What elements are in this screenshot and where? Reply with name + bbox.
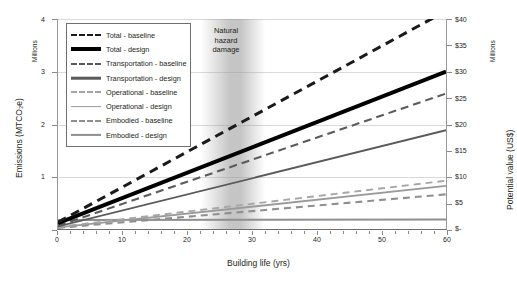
x-tickmark: [161, 231, 162, 234]
legend-item-operational-baseline[interactable]: Operational - baseline: [71, 85, 185, 99]
x-tickmark: [83, 231, 84, 234]
x-tickmark: [434, 231, 435, 234]
x-tickmark: [356, 231, 357, 234]
legend-swatch-transportation-design: [71, 73, 101, 83]
legend-item-operational-design[interactable]: Operational - design: [71, 99, 185, 113]
natural-hazard-annotation: Natural hazard damage: [196, 26, 256, 55]
legend-swatch-embodied-design: [71, 130, 101, 140]
x-tickmark: [408, 231, 409, 234]
y-tick-right-15: $15: [455, 147, 481, 154]
legend-swatch-operational-design: [71, 102, 101, 112]
y-axis-left-units: Millions: [31, 40, 38, 62]
x-tickmark: [57, 231, 58, 235]
y-tick-right-0: $-: [455, 225, 481, 232]
legend-label-transportation-design: Transportation - design: [106, 74, 181, 83]
chart-legend: Total - baseline Total - design Transpor…: [66, 23, 191, 147]
chart-figure: Emissions (MTCO₂e) Millions Potential va…: [0, 0, 517, 282]
x-tickmark: [304, 231, 305, 234]
x-tick-30: 30: [240, 236, 264, 243]
x-tick-0: 0: [45, 236, 69, 243]
legend-label-total-design: Total - design: [106, 45, 149, 54]
x-tickmark: [70, 231, 71, 234]
x-tickmark: [291, 231, 292, 234]
x-tickmark: [278, 231, 279, 234]
y-tick-left-4: 4: [30, 16, 45, 23]
x-tick-50: 50: [370, 236, 394, 243]
x-tickmark: [200, 231, 201, 234]
y-axis-right-title: Potential value (US$): [505, 130, 515, 210]
y-tick-right-30: $30: [455, 68, 481, 75]
x-tickmark: [239, 231, 240, 234]
y-axis-left-title: Emissions (MTCO₂e): [14, 98, 24, 178]
y-axis-right-units: Millions: [489, 40, 496, 62]
legend-item-total-baseline[interactable]: Total - baseline: [71, 28, 185, 42]
legend-item-total-design[interactable]: Total - design: [71, 42, 185, 56]
x-tickmark: [109, 231, 110, 234]
legend-label-embodied-baseline: Embodied - baseline: [106, 116, 173, 125]
x-tickmark: [421, 231, 422, 234]
legend-swatch-total-baseline: [71, 30, 101, 40]
x-tickmark: [382, 231, 383, 235]
legend-swatch-total-design: [71, 44, 101, 54]
x-tick-60: 60: [435, 236, 459, 243]
x-tick-10: 10: [110, 236, 134, 243]
x-tickmark: [395, 231, 396, 234]
legend-label-operational-baseline: Operational - baseline: [106, 88, 177, 97]
legend-item-embodied-design[interactable]: Embodied - design: [71, 128, 185, 142]
x-tickmark: [122, 231, 123, 235]
legend-label-embodied-design: Embodied - design: [106, 131, 167, 140]
x-tickmark: [317, 231, 318, 235]
y-tick-right-25: $25: [455, 95, 481, 102]
y-tick-left-3: 3: [30, 68, 45, 75]
x-tickmark: [148, 231, 149, 234]
legend-item-embodied-baseline[interactable]: Embodied - baseline: [71, 114, 185, 128]
x-tickmark: [330, 231, 331, 234]
legend-label-total-baseline: Total - baseline: [106, 31, 155, 40]
y-tick-right-40: $40: [455, 16, 481, 23]
legend-swatch-embodied-baseline: [71, 116, 101, 126]
x-tickmark: [174, 231, 175, 234]
x-tick-20: 20: [175, 236, 199, 243]
legend-swatch-transportation-baseline: [71, 59, 101, 69]
legend-label-transportation-baseline: Transportation - baseline: [106, 59, 186, 68]
y-tick-right-5: $5: [455, 199, 481, 206]
legend-swatch-operational-baseline: [71, 87, 101, 97]
x-tick-40: 40: [305, 236, 329, 243]
x-tickmark: [252, 231, 253, 235]
y-tick-right-35: $35: [455, 42, 481, 49]
x-tickmark: [265, 231, 266, 234]
x-tickmark: [343, 231, 344, 234]
x-tickmark: [226, 231, 227, 234]
x-tickmark: [135, 231, 136, 234]
x-axis-title: Building life (yrs): [0, 258, 517, 268]
x-tickmark: [369, 231, 370, 234]
x-tickmark: [187, 231, 188, 235]
legend-label-operational-design: Operational - design: [106, 102, 172, 111]
y-tick-left-1: 1: [30, 173, 45, 180]
y-tick-left-2: 2: [30, 121, 45, 128]
legend-item-transportation-baseline[interactable]: Transportation - baseline: [71, 57, 185, 71]
legend-item-transportation-design[interactable]: Transportation - design: [71, 71, 185, 85]
x-tickmark: [213, 231, 214, 234]
x-tickmark: [447, 231, 448, 235]
x-tickmark: [96, 231, 97, 234]
y-tick-right-10: $10: [455, 173, 481, 180]
y-tick-right-20: $20: [455, 121, 481, 128]
